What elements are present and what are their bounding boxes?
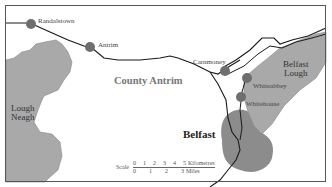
scale-km-tick: 4: [173, 160, 183, 166]
scale-km-row: 0 1 2 3 4 5 Kilometres: [133, 160, 215, 168]
scale-km-unit: Kilometres: [188, 160, 215, 166]
belfast-lough-line2: Lough: [283, 69, 309, 78]
region-label: County Antrim: [114, 76, 183, 87]
scale-mile-tick: 2: [165, 168, 181, 174]
town-label-carnmoney: Carnmoney: [193, 59, 226, 66]
town-marker-whitehouse[interactable]: [236, 92, 246, 102]
town-label-randalstown: Randalstown: [38, 18, 75, 25]
lough-neagh-line2: Neagh: [11, 113, 35, 122]
scale-km-tick: 3: [163, 160, 173, 166]
scale-km-tick: 2: [153, 160, 163, 166]
city-label-belfast: Belfast: [183, 129, 215, 140]
town-label-whiteabbey: Whiteabbey: [253, 83, 287, 90]
scale-bars: 0 1 2 3 4 5 Kilometres 0 1 2 3 Miles: [133, 160, 215, 174]
town-marker-carnmoney[interactable]: [220, 66, 230, 76]
town-marker-whiteabbey[interactable]: [242, 73, 252, 83]
scale-km-tick: 0: [133, 160, 143, 166]
water-label-belfast-lough: Belfast Lough: [283, 60, 309, 79]
scale-mile-tick: 0: [133, 168, 149, 174]
scale-km-tick: 1: [143, 160, 153, 166]
water-label-lough-neagh: Lough Neagh: [11, 104, 35, 123]
scale-mile-row: 0 1 2 3 Miles: [133, 168, 215, 174]
map-canvas: [0, 0, 332, 187]
scale-mile-tick: 3: [181, 168, 184, 174]
scale-km-tick: 5: [183, 160, 186, 166]
map-scale: Scale 0 1 2 3 4 5 Kilometres 0 1 2 3 Mil…: [116, 160, 215, 174]
scale-mile-tick: 1: [149, 168, 165, 174]
town-label-antrim: Antrim: [98, 42, 118, 49]
town-label-whitehouse: Whitehouse: [246, 101, 279, 108]
town-marker-randalstown[interactable]: [26, 19, 36, 29]
scale-mile-unit: Miles: [186, 168, 200, 174]
scale-label: Scale: [116, 164, 129, 170]
town-marker-antrim[interactable]: [85, 42, 95, 52]
